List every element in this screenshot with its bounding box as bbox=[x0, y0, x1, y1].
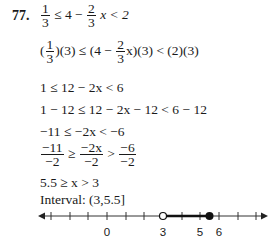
number-line bbox=[0, 0, 273, 244]
open-endpoint bbox=[160, 213, 167, 220]
right-arrow-icon bbox=[261, 213, 268, 220]
closed-endpoint bbox=[206, 212, 214, 220]
tick-label-0: 0 bbox=[104, 226, 110, 238]
tick-label-6: 6 bbox=[216, 226, 222, 238]
tick-label-3: 3 bbox=[160, 226, 166, 238]
tick-label-5: 5 bbox=[197, 226, 203, 238]
left-arrow-icon bbox=[38, 213, 45, 220]
